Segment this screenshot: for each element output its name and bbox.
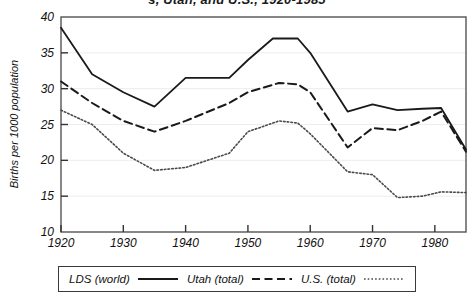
legend-item-2: U.S. (total) [301, 273, 405, 285]
y-tick-label-25: 25 [20, 118, 54, 132]
x-axis-tick-labels: 1920193019401950196019701980 [0, 236, 474, 256]
legend-label-0: LDS (world) [69, 273, 130, 285]
y-tick-label-30: 30 [20, 82, 54, 96]
chart-legend: LDS (world)Utah (total)U.S. (total) [58, 266, 416, 292]
y-tick-label-40: 40 [20, 10, 54, 24]
legend-swatch-solid [137, 274, 179, 284]
legend-item-1: Utah (total) [187, 273, 293, 285]
legend-label-1: Utah (total) [187, 273, 244, 285]
x-tick-label-1930: 1930 [110, 236, 137, 250]
legend-item-0: LDS (world) [69, 273, 179, 285]
x-tick-label-1940: 1940 [172, 236, 199, 250]
y-tick-label-20: 20 [20, 153, 54, 167]
x-tick-label-1920: 1920 [48, 236, 75, 250]
y-tick-label-15: 15 [20, 189, 54, 203]
chart-title: s, Utah, and U.S., 1920-1985 [0, 0, 474, 6]
x-tick-label-1960: 1960 [297, 236, 324, 250]
x-tick-label-1970: 1970 [359, 236, 386, 250]
x-tick-label-1980: 1980 [421, 236, 448, 250]
chart-figure: s, Utah, and U.S., 1920-1985 Births per … [0, 0, 474, 299]
legend-label-2: U.S. (total) [301, 273, 356, 285]
legend-swatch-dotted [363, 274, 405, 284]
y-tick-label-35: 35 [20, 46, 54, 60]
x-tick-label-1950: 1950 [235, 236, 262, 250]
series-line-u-s-total [61, 110, 466, 197]
legend-swatch-dashed [251, 274, 293, 284]
